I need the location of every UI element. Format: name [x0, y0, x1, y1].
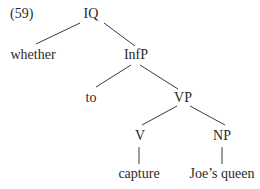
node-v: V	[135, 128, 145, 144]
node-infp: InfP	[124, 47, 148, 63]
edge-iq-infp	[104, 23, 135, 46]
edge-vp-v	[142, 106, 177, 125]
node-to: to	[86, 90, 97, 106]
edge-iq-whether	[36, 23, 80, 44]
node-capture: capture	[118, 166, 159, 182]
node-iq: IQ	[84, 6, 99, 22]
node-vp: VP	[174, 90, 192, 106]
syntax-tree-diagram: (59) IQ whether InfP to VP V NP capture …	[0, 0, 260, 189]
edge-infp-to	[96, 65, 131, 87]
node-whether: whether	[10, 47, 55, 63]
node-np: NP	[213, 128, 231, 144]
tree-edges	[0, 0, 260, 189]
edge-vp-np	[190, 106, 225, 125]
edge-infp-vp	[140, 65, 178, 89]
node-joes-queen: Joe’s queen	[190, 166, 255, 182]
example-number: (59)	[10, 6, 33, 22]
